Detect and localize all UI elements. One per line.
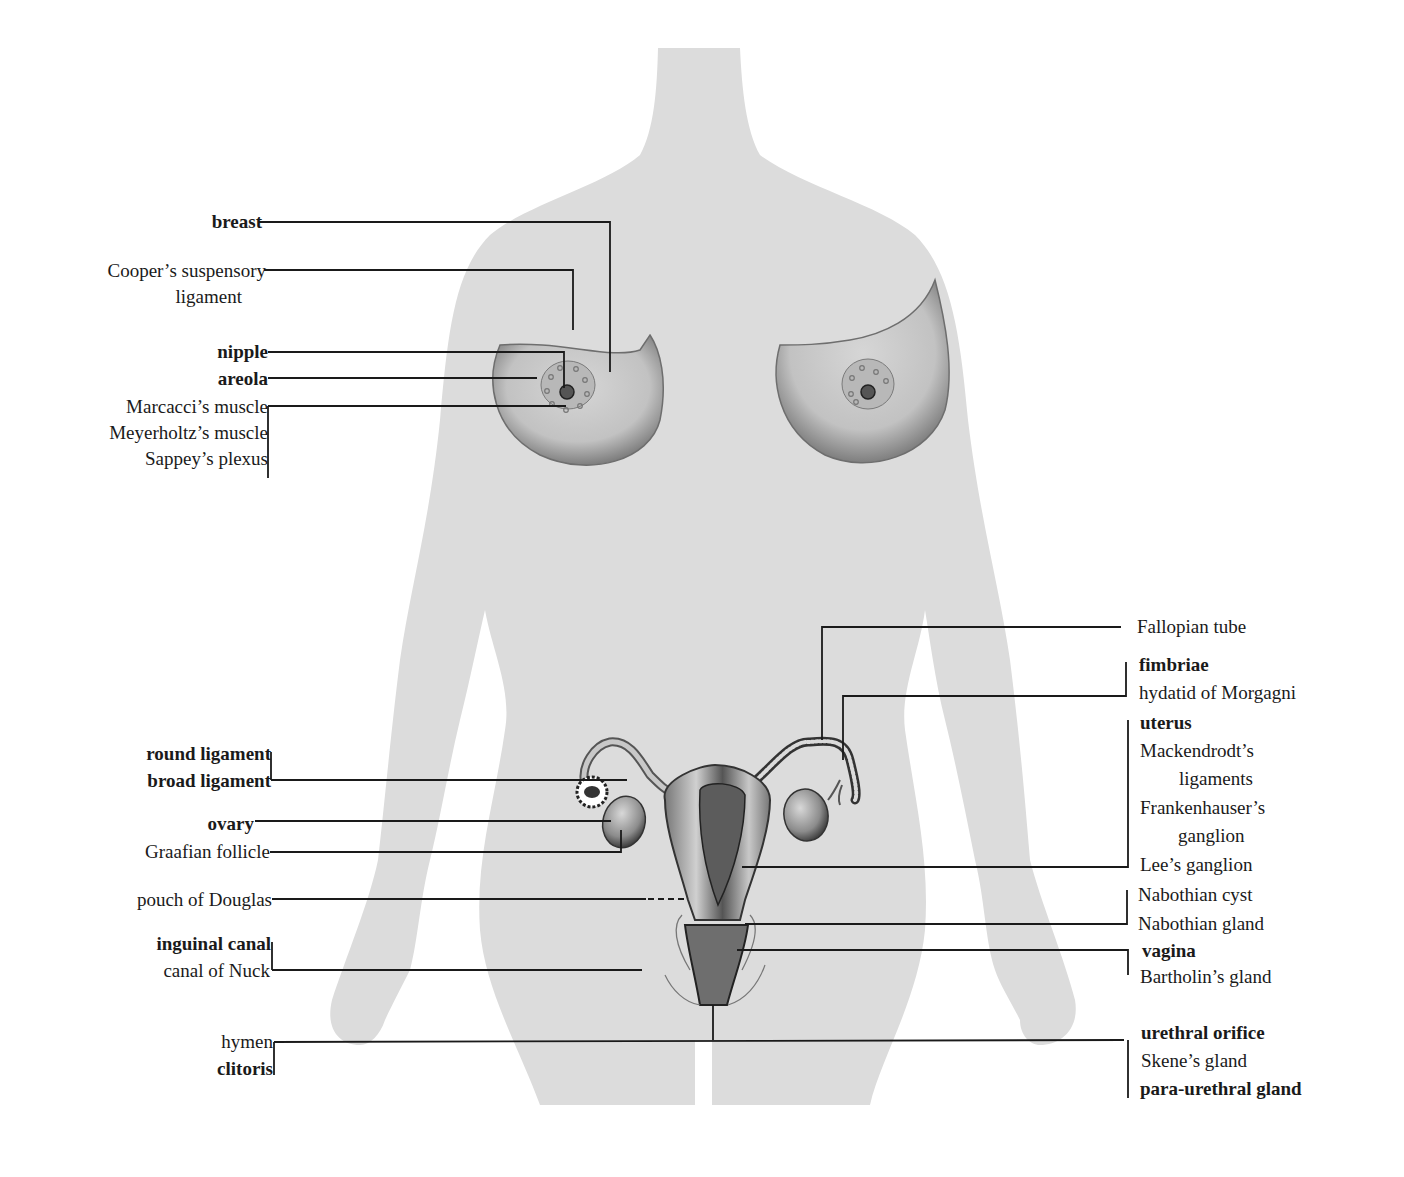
label-inguinal-canal: inguinal canal bbox=[156, 931, 271, 957]
label-broad-ligament: broad ligament bbox=[147, 768, 271, 794]
label-areola: areola bbox=[218, 366, 268, 392]
label-round-ligament: round ligament bbox=[146, 741, 271, 767]
label-bartholins-gland: Bartholin’s gland bbox=[1140, 964, 1271, 990]
label-urethral-orifice: urethral orifice bbox=[1141, 1020, 1265, 1046]
label-frankenhausers-ganglion-cont: ganglion bbox=[1178, 823, 1245, 849]
label-nabothian-cyst: Nabothian cyst bbox=[1138, 882, 1253, 908]
label-canal-of-nuck: canal of Nuck bbox=[163, 958, 270, 984]
label-mackendrodts-ligaments-cont: ligaments bbox=[1179, 766, 1253, 792]
label-nipple: nipple bbox=[217, 339, 268, 365]
label-uterus: uterus bbox=[1140, 710, 1192, 736]
label-clitoris: clitoris bbox=[217, 1056, 273, 1082]
label-hydatid-of-morgagni: hydatid of Morgagni bbox=[1139, 680, 1296, 706]
label-hymen: hymen bbox=[221, 1029, 273, 1055]
label-marcaccis-muscle: Marcacci’s muscle bbox=[126, 394, 268, 420]
label-mackendrodts-ligaments: Mackendrodt’s bbox=[1140, 738, 1254, 764]
label-sappeys-plexus: Sappey’s plexus bbox=[145, 446, 268, 472]
label-skenes-gland: Skene’s gland bbox=[1141, 1048, 1247, 1074]
label-pouch-of-douglas: pouch of Douglas bbox=[137, 887, 272, 913]
label-fimbriae: fimbriae bbox=[1139, 652, 1209, 678]
label-lees-ganglion: Lee’s ganglion bbox=[1140, 852, 1252, 878]
label-graafian-follicle: Graafian follicle bbox=[145, 839, 270, 865]
diagram-artwork bbox=[0, 0, 1404, 1177]
label-vagina: vagina bbox=[1142, 938, 1196, 964]
label-coopers-ligament: Cooper’s suspensory bbox=[107, 258, 266, 284]
label-nabothian-gland: Nabothian gland bbox=[1138, 911, 1264, 937]
label-frankenhausers-ganglion: Frankenhauser’s bbox=[1140, 795, 1265, 821]
label-meyerholtzs-muscle: Meyerholtz’s muscle bbox=[109, 420, 268, 446]
label-breast: breast bbox=[212, 209, 262, 235]
anatomy-diagram: Female anatomy: breast and reproductive … bbox=[0, 0, 1404, 1177]
label-fallopian-tube: Fallopian tube bbox=[1137, 614, 1246, 640]
label-para-urethral-gland: para-urethral gland bbox=[1140, 1076, 1302, 1102]
label-ovary: ovary bbox=[208, 811, 254, 837]
label-coopers-ligament-cont: ligament bbox=[176, 284, 242, 310]
